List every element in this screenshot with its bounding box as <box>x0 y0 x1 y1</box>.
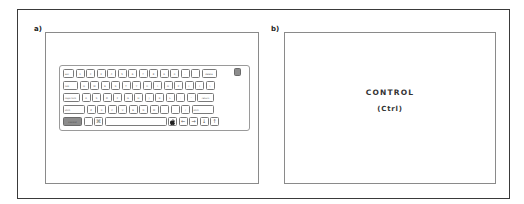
key-i: I <box>153 81 162 90</box>
key-caps-lock: caps lock <box>63 93 80 102</box>
key-x: X <box>97 105 106 114</box>
keyboard-row-1: esc 1 2 3 4 5 6 7 8 9 0 - = delete <box>63 69 217 78</box>
key-9: 9 <box>160 69 169 78</box>
key-w: W <box>90 81 99 90</box>
key-comma: , <box>160 105 169 114</box>
key-period: . <box>171 105 180 114</box>
keyboard-diagram: esc 1 2 3 4 5 6 7 8 9 0 - = delete tab Q… <box>59 65 250 131</box>
panel-b-label: b) <box>271 25 279 33</box>
key-6: 6 <box>128 69 137 78</box>
keyboard-row-2: tab Q W E R T Y U I O P [ ] \ <box>63 81 215 90</box>
panel-a-label: a) <box>34 25 42 33</box>
key-z: Z <box>87 105 96 114</box>
key-command: ⌘ <box>94 117 103 126</box>
keyboard-row-5: control ⌘ ← → ↓ ↑ <box>63 117 219 126</box>
key-shift-left: shift <box>63 105 85 114</box>
key-7: 7 <box>139 69 148 78</box>
key-arrow-down: ↓ <box>200 117 209 126</box>
key-arrow-up: ↑ <box>210 117 219 126</box>
key-left-bracket: [ <box>185 81 194 90</box>
keyboard-row-4: shift Z X C V B N M , . / shift <box>63 105 214 114</box>
key-y: Y <box>132 81 141 90</box>
key-minus: - <box>181 69 190 78</box>
key-e: E <box>101 81 110 90</box>
key-option <box>84 117 93 126</box>
keyboard-row-3: caps lock A S D F G H J K L ; ' return <box>63 93 214 102</box>
key-semicolon: ; <box>176 93 185 102</box>
key-f: F <box>113 93 122 102</box>
key-arrow-left: ← <box>179 117 188 126</box>
key-quote: ' <box>187 93 196 102</box>
key-l: L <box>166 93 175 102</box>
key-arrow-right: → <box>189 117 198 126</box>
key-a: A <box>82 93 91 102</box>
key-t: T <box>122 81 131 90</box>
key-space <box>105 117 167 126</box>
key-control-highlighted: control <box>63 117 82 126</box>
key-2: 2 <box>86 69 95 78</box>
key-b: B <box>129 105 138 114</box>
key-o: O <box>164 81 173 90</box>
key-0: 0 <box>170 69 179 78</box>
apple-icon <box>168 117 177 126</box>
key-c: C <box>108 105 117 114</box>
key-h: H <box>134 93 143 102</box>
key-equals: = <box>191 69 200 78</box>
key-4: 4 <box>107 69 116 78</box>
key-return: return <box>197 93 214 102</box>
key-5: 5 <box>118 69 127 78</box>
key-s: S <box>92 93 101 102</box>
key-1: 1 <box>76 69 85 78</box>
key-d: D <box>103 93 112 102</box>
key-backslash: \ <box>206 81 215 90</box>
key-tab: tab <box>63 81 78 90</box>
key-n: N <box>139 105 148 114</box>
key-r: R <box>111 81 120 90</box>
key-3: 3 <box>97 69 106 78</box>
key-p: P <box>174 81 183 90</box>
key-m: M <box>150 105 159 114</box>
key-right-bracket: ] <box>195 81 204 90</box>
key-shift-right: shift <box>192 105 214 114</box>
key-u: U <box>143 81 152 90</box>
key-8: 8 <box>149 69 158 78</box>
power-key-highlighted <box>234 68 241 76</box>
key-abbreviation: (Ctrl) <box>284 105 496 113</box>
key-q: Q <box>80 81 89 90</box>
key-esc: esc <box>63 69 74 78</box>
key-k: K <box>155 93 164 102</box>
key-slash: / <box>181 105 190 114</box>
key-j: J <box>145 93 154 102</box>
key-name-title: CONTROL <box>284 88 496 97</box>
key-v: V <box>118 105 127 114</box>
key-delete: delete <box>202 69 217 78</box>
key-g: G <box>124 93 133 102</box>
